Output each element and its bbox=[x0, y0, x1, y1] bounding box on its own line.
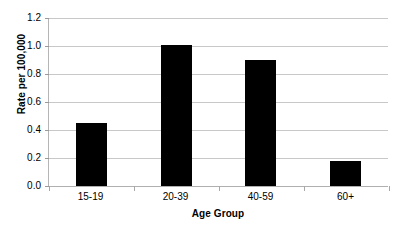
bar-chart: Rate per 100,000 0.00.20.40.60.81.01.2 1… bbox=[0, 0, 396, 232]
x-tick-label: 15-19 bbox=[48, 190, 133, 204]
bar-series bbox=[49, 18, 388, 186]
bar-slot bbox=[49, 18, 134, 186]
x-tick-label: 20-39 bbox=[133, 190, 218, 204]
bar-slot bbox=[219, 18, 304, 186]
bar bbox=[245, 60, 276, 186]
y-tick-label: 0.6 bbox=[7, 97, 41, 107]
bar bbox=[76, 123, 107, 186]
y-tick-label: 0.8 bbox=[7, 69, 41, 79]
bar bbox=[161, 45, 192, 186]
x-tick-mark bbox=[389, 186, 390, 191]
plot-area: 0.00.20.40.60.81.01.2 bbox=[48, 18, 388, 186]
bar-slot bbox=[303, 18, 388, 186]
y-tick-label: 0.4 bbox=[7, 125, 41, 135]
y-tick-label: 0.0 bbox=[7, 181, 41, 191]
bar-slot bbox=[134, 18, 219, 186]
y-tick-label: 1.2 bbox=[7, 13, 41, 23]
y-tick-label: 1.0 bbox=[7, 41, 41, 51]
y-tick-label: 0.2 bbox=[7, 153, 41, 163]
x-tick-label: 40-59 bbox=[218, 190, 303, 204]
y-axis-title: Rate per 100,000 bbox=[15, 0, 29, 159]
x-axis-tick-labels: 15-1920-3940-5960+ bbox=[48, 190, 388, 204]
x-axis-title: Age Group bbox=[48, 208, 388, 219]
x-tick-label: 60+ bbox=[303, 190, 388, 204]
bar bbox=[330, 161, 361, 186]
